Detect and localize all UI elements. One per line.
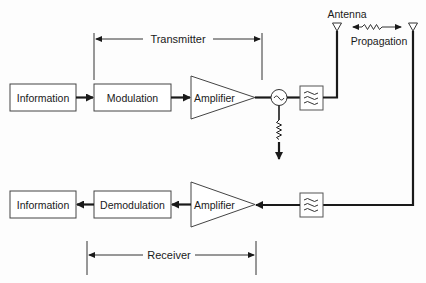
demodulation-label: Demodulation — [100, 199, 165, 211]
oscillator-icon — [271, 90, 287, 106]
demodulation-box: Demodulation — [94, 191, 171, 218]
propagation-arrow — [353, 25, 401, 30]
transmitter-label: Transmitter — [150, 33, 206, 45]
antenna-label: Antenna — [327, 8, 366, 20]
rx-information-label: Information — [17, 199, 70, 211]
resistor-icon — [277, 106, 282, 160]
receiver-bracket: Receiver — [87, 241, 256, 275]
tx-information-box: Information — [10, 84, 76, 111]
modulation-box: Modulation — [94, 84, 171, 111]
transmitter-bracket: Transmitter — [94, 33, 262, 80]
tx-bandpass-filter-icon — [300, 86, 323, 110]
tx-amplifier-label: Amplifier — [194, 92, 235, 104]
rx-bandpass-filter-icon — [300, 193, 323, 217]
rx-antenna-icon — [409, 23, 418, 31]
tx-amplifier: Amplifier — [191, 76, 255, 119]
modulation-label: Modulation — [107, 92, 159, 104]
rx-amplifier-label: Amplifier — [194, 199, 235, 211]
tx-information-label: Information — [17, 92, 70, 104]
receiver-label: Receiver — [147, 249, 191, 261]
rx-information-box: Information — [10, 191, 76, 218]
rx-amplifier: Amplifier — [191, 182, 255, 227]
diagram-canvas: Transmitter Information Modulation Ampli… — [0, 0, 426, 283]
tx-antenna-icon — [333, 23, 342, 31]
propagation-label: Propagation — [351, 35, 408, 47]
